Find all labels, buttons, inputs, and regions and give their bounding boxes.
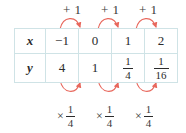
fraction-denominator: 16	[154, 69, 169, 81]
bottom-annotation-label-1: × 1 4	[57, 104, 75, 129]
fraction-numerator: 1	[154, 56, 169, 69]
cell-x-0: −1	[46, 29, 79, 54]
multiplication-sign: ×	[135, 109, 142, 124]
fraction-denominator: 4	[144, 117, 154, 129]
cell-x-2: 1	[112, 29, 145, 54]
bottom-annotation-label-3: × 1 4	[135, 104, 153, 129]
row-header-y: y	[15, 54, 46, 83]
fraction-one-quarter: 1 4	[144, 104, 154, 129]
fraction-denominator: 4	[105, 117, 115, 129]
row-header-x: x	[15, 29, 46, 54]
fraction-one-quarter: 1 4	[105, 104, 115, 129]
data-table: x −1 0 1 2 y 4 1 1 4 1	[14, 28, 178, 83]
multiplication-sign: ×	[96, 109, 103, 124]
figure-root: + 1 + 1 + 1 x −1 0 1	[0, 0, 186, 133]
data-table-wrapper: x −1 0 1 2 y 4 1 1 4 1	[14, 28, 172, 80]
fraction-one-quarter: 1 4	[123, 56, 133, 81]
fraction-numerator: 1	[105, 104, 115, 117]
fraction-denominator: 4	[66, 117, 76, 129]
cell-y-3: 1 16	[145, 54, 178, 83]
top-annotation-label-3: + 1	[139, 2, 158, 18]
fraction-one-quarter: 1 4	[66, 104, 76, 129]
fraction-one-sixteenth: 1 16	[154, 56, 169, 81]
fraction-numerator: 1	[66, 104, 76, 117]
cell-y-0: 4	[46, 54, 79, 83]
cell-x-1: 0	[79, 29, 112, 54]
cell-y-2: 1 4	[112, 54, 145, 83]
table-row-x: x −1 0 1 2	[15, 29, 178, 54]
multiplication-sign: ×	[57, 109, 64, 124]
top-annotation-label-2: + 1	[101, 2, 120, 18]
bottom-annotation-label-2: × 1 4	[96, 104, 114, 129]
table-row-y: y 4 1 1 4 1 16	[15, 54, 178, 83]
fraction-numerator: 1	[144, 104, 154, 117]
fraction-denominator: 4	[123, 69, 133, 81]
fraction-numerator: 1	[123, 56, 133, 69]
cell-y-1: 1	[79, 54, 112, 83]
cell-x-3: 2	[145, 29, 178, 54]
top-annotation-label-1: + 1	[63, 2, 82, 18]
